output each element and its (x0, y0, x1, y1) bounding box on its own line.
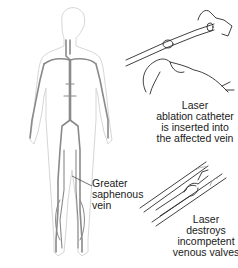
label-greater-saphenous-vein: Greater saphenous vein (92, 178, 143, 211)
label-line: venous valves (170, 247, 238, 258)
label-line: the affected vein (150, 133, 238, 144)
label-laser-destroys-valves: Laser destroys incompetent venous valves (170, 214, 238, 258)
label-line: vein (92, 200, 143, 211)
label-catheter-insertion: Laser ablation catheter is inserted into… (150, 100, 238, 144)
body-outline (30, 8, 112, 256)
gsv-leader-line (72, 176, 92, 186)
catheter-hands-illustration (126, 10, 234, 94)
vein-network (30, 40, 108, 252)
